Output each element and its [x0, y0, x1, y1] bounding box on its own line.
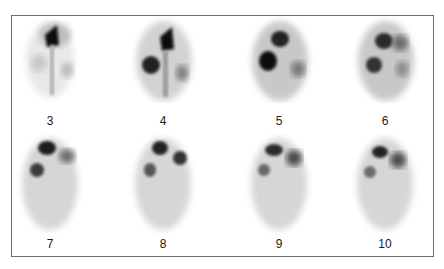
scan-image-frame-3	[5, 15, 95, 103]
frame-label: 9	[234, 237, 324, 251]
frame-label: 5	[234, 114, 324, 128]
scan-image-frame-4	[118, 15, 208, 103]
frame-label: 6	[340, 114, 430, 128]
scan-image-frame-9	[234, 134, 324, 234]
scan-image-frame-10	[340, 134, 430, 234]
frame-label: 7	[5, 237, 95, 251]
scan-image-frame-5	[234, 15, 324, 103]
scan-image-frame-6	[340, 15, 430, 103]
scan-image-frame-7	[5, 134, 95, 234]
frame-label: 3	[5, 114, 95, 128]
frame-label: 4	[118, 114, 208, 128]
frame-label: 10	[340, 237, 430, 251]
scan-image-frame-8	[118, 134, 208, 234]
frame-label: 8	[118, 237, 208, 251]
